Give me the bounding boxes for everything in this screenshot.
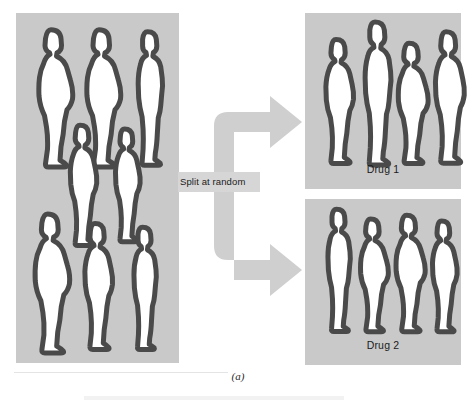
person-silhouette: [421, 217, 462, 335]
figure-caption: (a): [0, 370, 476, 382]
drug1-group-panel: Drug 1: [305, 13, 461, 189]
drug2-label: Drug 2: [305, 339, 461, 351]
drug2-group-panel: Drug 2: [305, 199, 461, 365]
figure-root: Split at random Drug 1 Drug 2 (a): [0, 0, 476, 401]
person-silhouette: [22, 209, 73, 357]
clipped-text-line: [84, 396, 344, 400]
split-at-random-label: Split at random: [178, 172, 260, 192]
arrow-to-drug2: [214, 188, 302, 296]
participant-pool-panel: [16, 13, 179, 363]
person-silhouette: [120, 223, 165, 353]
arrow-to-drug1: [214, 96, 302, 182]
drug1-label: Drug 1: [305, 163, 461, 175]
person-silhouette: [422, 27, 470, 167]
person-silhouette: [72, 219, 118, 353]
